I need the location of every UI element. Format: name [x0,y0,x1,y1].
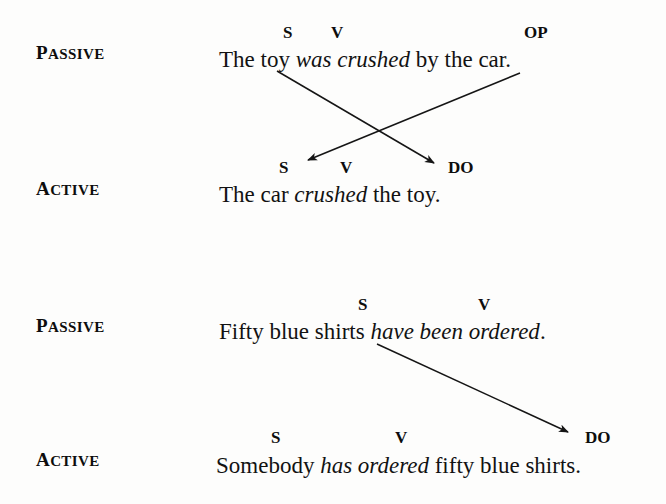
role-tag-s: S [358,296,367,313]
arrow-layer [0,0,666,504]
role-tag-s: S [279,159,288,176]
sentence-segment-roman: by the car. [410,47,511,72]
voice-label-initial: A [36,178,50,199]
voice-label-initial: A [36,449,50,470]
sentence-passive-2: Fifty blue shirts have been ordered. [219,320,546,343]
voice-transformation-figure: PASSIVE S V OP The toy was crushed by th… [0,0,666,504]
sentence-segment-roman: Somebody [216,453,320,478]
sentence-passive-1: The toy was crushed by the car. [219,48,511,71]
voice-label-active-2: ACTIVE [36,449,100,471]
role-tag-v: V [340,159,352,176]
arrow-object-of-prep-to-subject-1 [308,73,520,160]
sentence-segment-roman: The car [219,182,294,207]
role-tag-op: OP [524,24,548,41]
role-tag-v: V [395,429,407,446]
sentence-segment-italic: has ordered [320,453,429,478]
voice-label-rest: ASSIVE [48,46,105,62]
voice-label-passive-2: PASSIVE [36,315,105,337]
voice-label-active-1: ACTIVE [36,178,100,200]
role-tag-s: S [283,24,292,41]
sentence-segment-roman: The toy [219,47,296,72]
voice-label-rest: CTIVE [50,182,100,198]
sentence-segment-italic: crushed [294,182,367,207]
sentence-segment-roman: fifty blue shirts. [429,453,581,478]
sentence-segment-italic: have been ordered [370,319,539,344]
sentence-segment-roman: the toy. [367,182,440,207]
voice-label-passive-1: PASSIVE [36,42,105,64]
arrow-subject-to-direct-object-1 [277,71,434,163]
role-tag-v: V [478,296,490,313]
sentence-segment-roman: . [540,319,546,344]
sentence-segment-roman: Fifty blue shirts [219,319,370,344]
role-tag-v: V [331,24,343,41]
role-tag-do: DO [448,159,474,176]
voice-label-rest: ASSIVE [48,319,105,335]
sentence-active-1: The car crushed the toy. [219,183,440,206]
sentence-segment-italic: was crushed [296,47,410,72]
arrow-subject-to-direct-object-2 [377,344,568,432]
role-tag-do: DO [585,429,611,446]
sentence-active-2: Somebody has ordered fifty blue shirts. [216,454,581,477]
voice-label-rest: CTIVE [50,453,100,469]
voice-label-initial: P [36,42,48,63]
role-tag-s: S [271,429,280,446]
voice-label-initial: P [36,315,48,336]
